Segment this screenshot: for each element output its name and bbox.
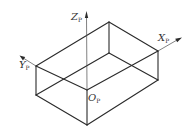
x-axis-label: XP xyxy=(157,32,169,44)
edge-d-b xyxy=(87,51,158,90)
origin-label: OP xyxy=(88,92,100,104)
z-axis-line xyxy=(87,16,88,90)
x-axis-arrow-icon xyxy=(175,38,182,43)
edge-a-b xyxy=(109,22,158,51)
box-coordinate-diagram: ZP XP YP OP xyxy=(0,0,193,134)
z-axis-label: ZP xyxy=(70,11,82,23)
edge-e-f xyxy=(109,53,158,80)
z-axis-arrow-icon xyxy=(85,11,88,18)
box-edges xyxy=(36,22,158,125)
edge-g-h xyxy=(36,95,87,125)
